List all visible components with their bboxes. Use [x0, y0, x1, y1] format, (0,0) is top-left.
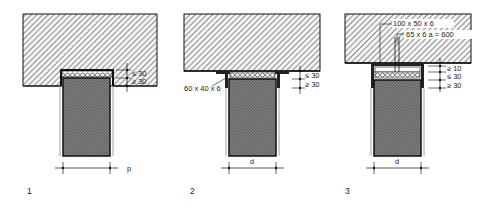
- dim-label: ≥ 30: [305, 80, 320, 89]
- channel-label: 100 x 50 x 6: [393, 19, 434, 28]
- steel-angle: [275, 71, 289, 88]
- wall: [229, 79, 276, 156]
- wall: [63, 78, 110, 156]
- dim-label: ≤ 30: [305, 71, 320, 80]
- detail-number: 2: [190, 186, 195, 196]
- dim-label: ≤ 30: [447, 72, 462, 81]
- detail-1: ≤ 30 ≥ 30 p 1: [23, 14, 157, 196]
- angle-label: 60 x 40 x 6: [184, 84, 221, 93]
- compressible-filler: [375, 72, 420, 78]
- detail-drawing: ≤ 30 ≥ 30 p 1 60 x 40 x 6 ≤ 30: [0, 0, 489, 222]
- wall: [374, 80, 421, 156]
- compressible-filler: [62, 71, 112, 77]
- width-label: p: [127, 164, 131, 173]
- compressible-filler: [230, 72, 275, 78]
- detail-2: 60 x 40 x 6 ≤ 30 ≥ 30 d 2: [184, 14, 320, 196]
- width-label: d: [250, 157, 254, 166]
- width-label: d: [395, 157, 399, 166]
- dim-label: ≥ 30: [132, 77, 147, 86]
- anchor-label: 65 x 6 a = 600: [406, 30, 454, 39]
- detail-3: 100 x 50 x 6 65 x 6 a = 600 ≥ 10 ≤ 30 ≥ …: [345, 14, 472, 196]
- ceiling-slab: [184, 14, 320, 71]
- dim-label: ≥ 30: [447, 81, 462, 90]
- detail-number: 3: [345, 186, 350, 196]
- detail-number: 1: [27, 186, 32, 196]
